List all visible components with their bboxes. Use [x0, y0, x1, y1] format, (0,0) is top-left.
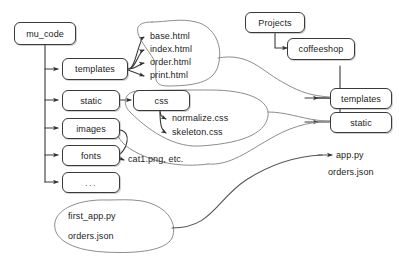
node-css-label: css	[155, 96, 169, 106]
edge-css-to-right-static	[268, 112, 332, 121]
node-ellipsis[interactable]: ...	[62, 172, 120, 193]
node-projects[interactable]: Projects	[245, 12, 305, 33]
leaf-cat-png: cat1.png, etc.	[128, 154, 183, 164]
node-templates-right[interactable]: templates	[330, 88, 392, 109]
node-projects-label: Projects	[258, 18, 291, 28]
node-static-left[interactable]: static	[62, 90, 120, 111]
leaf-base-html: base.html	[150, 31, 190, 41]
node-images-label: images	[76, 124, 106, 134]
node-fonts-label: fonts	[81, 151, 101, 161]
node-static-right-label: static	[350, 118, 372, 128]
node-ellipsis-label: ...	[85, 178, 97, 188]
node-coffeeshop-label: coffeeshop	[299, 44, 344, 54]
leaf-index-html: index.html	[150, 44, 192, 54]
edge-css-normalize	[160, 110, 166, 119]
node-images[interactable]: images	[62, 118, 120, 139]
node-mu-code[interactable]: mu_code	[14, 22, 76, 45]
edge-projects-coffeeshop	[275, 33, 287, 48]
node-mu-code-label: mu_code	[26, 29, 64, 39]
node-templates-left[interactable]: templates	[62, 58, 128, 80]
leaf-orders-json-right: orders.json	[328, 167, 374, 177]
node-static-right[interactable]: static	[330, 112, 392, 133]
node-css[interactable]: css	[133, 90, 190, 111]
blob-first-app-py: first_app.py	[68, 211, 116, 221]
leaf-app-py: app.py	[336, 150, 364, 160]
leaf-skeleton-css: skeleton.css	[172, 127, 223, 137]
edge-templates-to-right-templates	[218, 57, 330, 97]
node-static-left-label: static	[80, 96, 102, 106]
blob-orders-json: orders.json	[68, 231, 114, 241]
node-templates-left-label: templates	[75, 64, 115, 74]
node-coffeeshop[interactable]: coffeeshop	[287, 38, 355, 60]
leaf-print-html: print.html	[150, 70, 188, 80]
leaf-normalize-css: normalize.css	[172, 113, 228, 123]
edge-templates-print	[128, 70, 144, 76]
edge-templates-index	[128, 50, 144, 69]
blob-root-files	[55, 200, 174, 253]
edge-blob-to-apppy-path	[172, 155, 322, 228]
diagram-canvas: mu_code templates static images fonts ..…	[0, 0, 399, 263]
node-fonts[interactable]: fonts	[62, 145, 120, 166]
leaf-order-html: order.html	[150, 57, 191, 67]
node-templates-right-label: templates	[341, 94, 381, 104]
